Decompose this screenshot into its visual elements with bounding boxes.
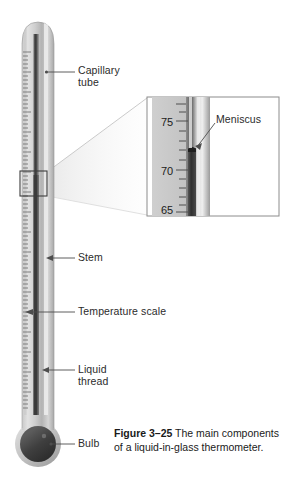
- inset-scale-number-70: 70: [161, 165, 173, 177]
- label-temperature-scale: Temperature scale: [78, 306, 166, 318]
- figure-caption: Figure 3–25 The main components of a liq…: [114, 427, 286, 454]
- inset-scale-number-65: 65: [161, 204, 173, 216]
- bulb-highlight: [42, 434, 46, 438]
- label-liquid-thread: Liquid thread: [78, 364, 108, 387]
- label-bulb: Bulb: [78, 438, 99, 450]
- label-capillary-tube: Capillary tube: [78, 65, 120, 88]
- thermometer-illustration: [0, 0, 290, 501]
- figure-number: Figure 3–25: [114, 427, 172, 439]
- label-meniscus: Meniscus: [216, 114, 261, 126]
- magnifier-cone: [47, 98, 147, 215]
- thermometer-body: [15, 22, 61, 467]
- inset-scale-number-75: 75: [161, 116, 173, 128]
- figure-liquid-in-glass-thermometer: Capillary tube Stem Temperature scale Li…: [0, 0, 290, 501]
- inset-liquid-column: [188, 148, 196, 216]
- label-stem: Stem: [78, 252, 103, 264]
